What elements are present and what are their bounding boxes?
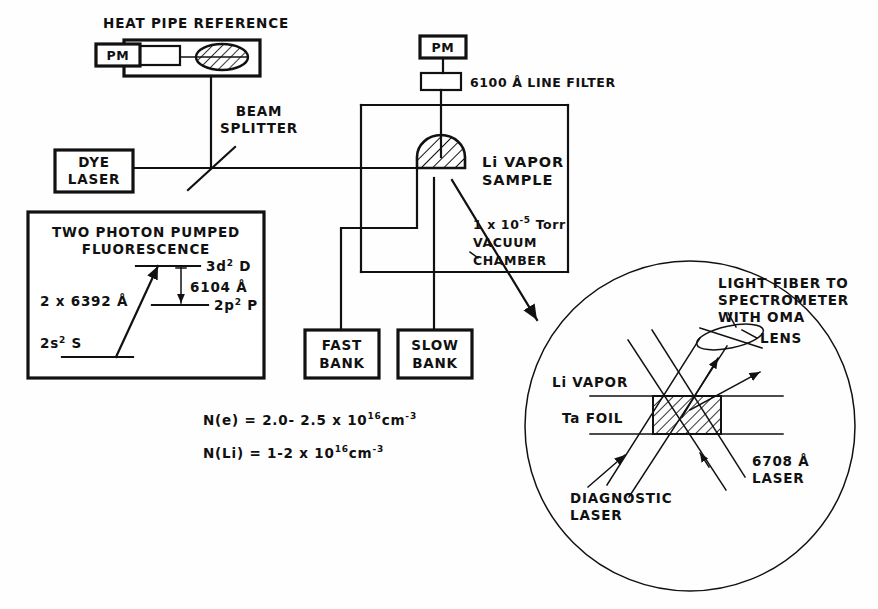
li-vapor-sample-label-line1: Li VAPOR: [482, 154, 564, 170]
density-equation-lithium: N(Li) = 1-2 x 1016cm-3: [203, 444, 384, 461]
dye-laser-label-line2: LASER: [68, 171, 120, 187]
heat-pipe-vapor-zone: [196, 44, 248, 70]
scattered-beam-arrow: [690, 372, 760, 410]
pump-wavelength-label: 2 x 6392 Å: [40, 293, 128, 309]
vacuum-chamber-label-line1: VACUUM: [473, 235, 537, 250]
light-fiber-label-line1: LIGHT FIBER TO: [718, 275, 849, 291]
detector-pm-label: PM: [432, 40, 455, 55]
detail-li-vapor-label: Li VAPOR: [552, 374, 628, 390]
probe-laser-label-line1: 6708 Å: [752, 453, 810, 469]
diagnostic-laser-label-line1: DIAGNOSTIC: [570, 490, 672, 506]
lens-axis-line: [700, 328, 762, 348]
fast-bank-label-line1: FAST: [322, 337, 362, 353]
energy-inset-title-line1: TWO PHOTON PUMPED: [52, 224, 240, 240]
light-fiber-label-line2: SPECTROMETER: [718, 292, 849, 308]
dye-laser-label-line1: DYE: [78, 154, 110, 170]
emission-wavelength-label: 6104 Å: [190, 279, 248, 295]
slow-bank-label-line2: BANK: [412, 355, 458, 371]
lens-label: LENS: [760, 330, 802, 346]
slow-bank-label-line1: SLOW: [411, 337, 458, 353]
density-equation-electron: N(e) = 2.0- 2.5 x 1016cm-3: [203, 411, 417, 428]
vacuum-chamber-label-line2: CHAMBER: [473, 253, 547, 268]
ta-foil-label: Ta FOIL: [562, 410, 623, 426]
diagnostic-laser-label-line2: LASER: [570, 507, 622, 523]
lens-leader-line: [742, 330, 757, 338]
chamber-pressure-label: 1 x 10-5 Torr: [473, 215, 566, 232]
line-filter-box: [421, 73, 461, 90]
line-filter-label: 6100 Å LINE FILTER: [470, 75, 616, 90]
detail-callout-leader: [452, 180, 537, 320]
heat-pipe-title: HEAT PIPE REFERENCE: [103, 15, 289, 31]
fast-bank-feed-line: [341, 168, 417, 330]
diagnostic-laser-arrow: [588, 455, 625, 487]
figure-canvas: HEAT PIPE REFERENCE PM BEAM SPLITTER DYE…: [0, 0, 878, 609]
beam-splitter-label-line2: SPLITTER: [220, 120, 298, 136]
interaction-region-pointer: [700, 453, 709, 467]
fast-bank-label-line2: BANK: [319, 355, 365, 371]
li-vapor-sample-label-line2: SAMPLE: [482, 172, 553, 188]
heat-pipe-pm-label: PM: [107, 48, 130, 63]
li-vapor-sample-region: [417, 135, 465, 168]
energy-inset-title-line2: FLUORESCENCE: [82, 241, 210, 257]
ta-foil-block: [653, 396, 721, 434]
probe-laser-label-line2: LASER: [752, 470, 804, 486]
beam-splitter-label-line1: BEAM: [236, 103, 283, 119]
apparatus-schematic: HEAT PIPE REFERENCE PM BEAM SPLITTER DYE…: [0, 0, 878, 609]
